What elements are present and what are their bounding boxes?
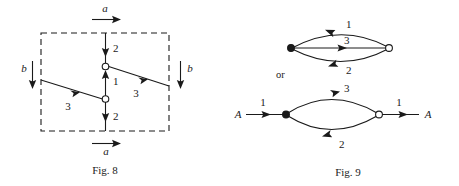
fig-8-bottom-a-label: a bbox=[103, 145, 109, 157]
fig-9-lower-graph-upper-arc-edge bbox=[288, 90, 377, 113]
fig-9-upper-graph-middle-straight-edge bbox=[294, 44, 386, 51]
fig-9-lower-graph-upper-arc-label: 3 bbox=[344, 82, 350, 94]
fig-9-lower-graph-left-entry-edge bbox=[246, 111, 283, 118]
fig-8-left-diagonal-edge bbox=[41, 80, 103, 99]
fig-8-bottom-vertical-edge bbox=[102, 102, 109, 131]
fig-8-top-a-label: a bbox=[102, 2, 108, 14]
fig-9-lower-graph-lower-arc-label: 2 bbox=[339, 138, 345, 150]
fig-8-left-b-arrow bbox=[29, 61, 36, 89]
fig-8-top-a-arrow bbox=[92, 16, 121, 23]
fig-8-right-diagonal-edge-label: 3 bbox=[133, 87, 139, 99]
fig-8-top-vertical-edge-label: 2 bbox=[113, 42, 119, 54]
fig-8-top-vertical-edge bbox=[102, 33, 109, 64]
fig-8-group: a a b b 2 1 bbox=[21, 2, 193, 176]
fig-8-caption: Fig. 8 bbox=[92, 164, 118, 176]
fig-9-lower-graph-right-node bbox=[376, 111, 383, 118]
fig-9-lower-graph-lower-arc-edge bbox=[288, 116, 377, 137]
fig-9-upper-graph-upper-arc-label: 1 bbox=[346, 18, 352, 30]
fig-8-right-b-arrow bbox=[177, 61, 184, 89]
fig-9-lower-graph-left-terminal: A bbox=[234, 108, 242, 120]
fig-8-middle-vertical-edge bbox=[102, 70, 109, 97]
fig-9-or-connector: or bbox=[276, 69, 285, 80]
fig-8-bottom-vertical-edge-label: 2 bbox=[113, 110, 119, 122]
fig-9-upper-graph-right-node bbox=[386, 45, 393, 52]
fig-9-upper-graph-middle-straight-label: 3 bbox=[344, 34, 350, 46]
fig-9-lower-graph-left-entry-label: 1 bbox=[260, 96, 266, 108]
fig-9-lower-graph-right-terminal: A bbox=[424, 108, 432, 120]
fig-9-upper-graph-upper-arc-edge bbox=[292, 30, 388, 48]
fig-8-right-b-label: b bbox=[187, 62, 193, 74]
fig-9-upper-graph-lower-arc-label: 2 bbox=[346, 64, 352, 76]
fig-9-group: 1 3 2 or A bbox=[234, 18, 432, 178]
fig-8-upper-node bbox=[102, 63, 109, 70]
fig-9-upper-graph-left-node bbox=[288, 45, 295, 52]
fig-9-lower-graph-left-node bbox=[283, 111, 290, 118]
fig-8-left-b-label: b bbox=[21, 62, 27, 74]
fig-9-lower-graph-right-exit-label: 1 bbox=[396, 96, 402, 108]
fig-8-lower-node bbox=[102, 96, 109, 103]
fig-9-caption: Fig. 9 bbox=[335, 166, 361, 178]
fig-9-upper-graph: 1 3 2 bbox=[288, 18, 393, 76]
fig-9-lower-graph-right-exit-edge bbox=[382, 111, 419, 118]
fig-8-left-diagonal-edge-label: 3 bbox=[65, 100, 71, 112]
figures-canvas: a a b b 2 1 bbox=[0, 0, 459, 186]
fig-9-lower-graph: A 1 3 2 bbox=[234, 82, 432, 150]
fig-8-middle-vertical-edge-label: 1 bbox=[113, 75, 119, 87]
fig-9-upper-graph-lower-arc-edge bbox=[292, 49, 388, 67]
